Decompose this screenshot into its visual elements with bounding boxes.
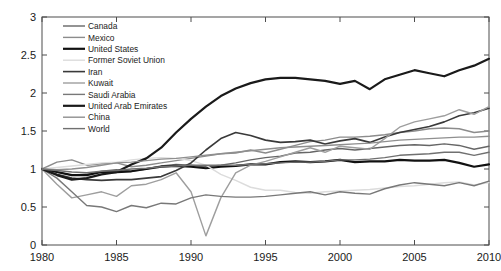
legend-label-united-states: United States [88, 44, 138, 54]
legend-label-saudi-arabia: Saudi Arabia [88, 90, 136, 100]
legend-label-world: World [88, 124, 110, 134]
legend-label-kuwait: Kuwait [88, 78, 114, 88]
x-tick-label: 2000 [328, 251, 352, 263]
y-tick-label: 1 [30, 163, 36, 175]
x-tick-label: 1990 [179, 251, 203, 263]
y-tick-label: 3 [30, 11, 36, 23]
x-tick-label: 1980 [30, 251, 54, 263]
legend-label-china: China [88, 112, 110, 122]
legend-label-iran: Iran [88, 67, 103, 77]
legend-label-mexico: Mexico [88, 33, 115, 43]
legend-label-united-arab-emirates: United Arab Emirates [88, 101, 167, 111]
legend-label-former-soviet-union: Former Soviet Union [88, 55, 165, 65]
y-tick-label: 2.5 [21, 49, 36, 61]
x-tick-label: 1985 [104, 251, 128, 263]
chart-figure: Index (1980=1) 00.511.522.53198019851990… [0, 0, 501, 271]
x-tick-label: 2005 [402, 251, 426, 263]
y-tick-label: 1.5 [21, 125, 36, 137]
y-tick-label: 0 [30, 239, 36, 251]
legend-label-canada: Canada [88, 21, 118, 31]
x-tick-label: 1995 [253, 251, 277, 263]
y-tick-label: 0.5 [21, 201, 36, 213]
line-chart: 00.511.522.53198019851990199520002005201… [0, 0, 501, 271]
y-tick-label: 2 [30, 87, 36, 99]
x-tick-label: 2010 [477, 251, 501, 263]
